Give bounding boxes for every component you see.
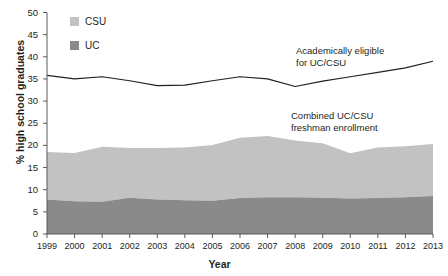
y-tick-label: 40 bbox=[14, 52, 38, 62]
y-tick-label: 30 bbox=[14, 96, 38, 106]
legend-swatch-csu bbox=[70, 17, 79, 26]
legend-label-csu: CSU bbox=[85, 16, 106, 27]
x-tick-label: 2005 bbox=[197, 241, 227, 251]
x-tick-label: 2001 bbox=[87, 241, 117, 251]
x-tick-label: 2008 bbox=[280, 241, 310, 251]
eligible-annotation: Academically eligible for UC/CSU bbox=[296, 45, 384, 68]
x-tick-label: 2013 bbox=[418, 241, 448, 251]
y-tick-label: 35 bbox=[14, 74, 38, 84]
x-tick-label: 2012 bbox=[390, 241, 420, 251]
x-tick-label: 1999 bbox=[32, 241, 62, 251]
x-tick-label: 2011 bbox=[363, 241, 393, 251]
legend-label-uc: UC bbox=[85, 40, 99, 51]
legend-item-uc: UC bbox=[70, 40, 99, 51]
y-tick-label: 15 bbox=[14, 163, 38, 173]
x-tick-label: 2002 bbox=[115, 241, 145, 251]
uc-area bbox=[47, 196, 433, 234]
y-tick-label: 5 bbox=[14, 207, 38, 217]
x-tick-label: 2007 bbox=[253, 241, 283, 251]
x-tick-label: 2009 bbox=[308, 241, 338, 251]
y-tick-label: 45 bbox=[14, 30, 38, 40]
y-tick-label: 25 bbox=[14, 118, 38, 128]
x-tick-label: 2010 bbox=[335, 241, 365, 251]
x-tick-label: 2003 bbox=[142, 241, 172, 251]
legend-swatch-uc bbox=[70, 41, 79, 50]
legend-item-csu: CSU bbox=[70, 16, 106, 27]
enrollment-annotation: Combined UC/CSU freshman enrollment bbox=[291, 110, 378, 133]
csu-area bbox=[47, 136, 433, 202]
y-tick-label: 20 bbox=[14, 140, 38, 150]
y-tick-label: 10 bbox=[14, 185, 38, 195]
x-tick-label: 2006 bbox=[225, 241, 255, 251]
x-tick-label: 2004 bbox=[170, 241, 200, 251]
y-tick-label: 50 bbox=[14, 8, 38, 18]
x-tick-label: 2000 bbox=[60, 241, 90, 251]
x-axis-title: Year bbox=[0, 258, 439, 270]
y-tick-label: 0 bbox=[14, 229, 38, 239]
